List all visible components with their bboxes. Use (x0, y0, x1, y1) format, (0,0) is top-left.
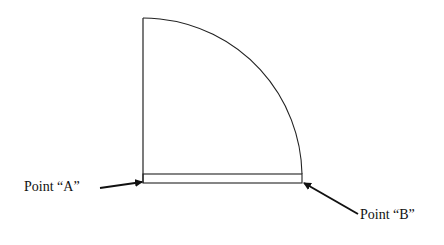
swing-arc (143, 18, 302, 174)
threshold-rect (143, 174, 302, 183)
arrow-point-a (100, 182, 142, 188)
label-point-a: Point “A” (24, 179, 80, 195)
label-point-b: Point “B” (360, 207, 415, 223)
arrow-point-b (304, 183, 358, 214)
